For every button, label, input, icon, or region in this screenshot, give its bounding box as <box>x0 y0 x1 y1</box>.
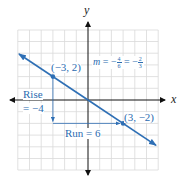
rise-value: = −4 <box>23 103 44 114</box>
y-axis-label: y <box>84 4 89 16</box>
rise-label: Rise <box>23 89 43 100</box>
fraction-2-3: 23 <box>138 56 143 69</box>
point-b-label: (3, −2) <box>124 112 154 123</box>
point-a-label: (−3, 2) <box>51 62 81 73</box>
x-axis-label: x <box>171 93 176 105</box>
run-label: Run = 6 <box>65 128 101 139</box>
slope-m: m <box>93 56 100 67</box>
fraction-4-6: 46 <box>117 56 122 69</box>
point-a <box>51 74 56 79</box>
slope-equation: m = −46 = −23 <box>92 56 144 69</box>
